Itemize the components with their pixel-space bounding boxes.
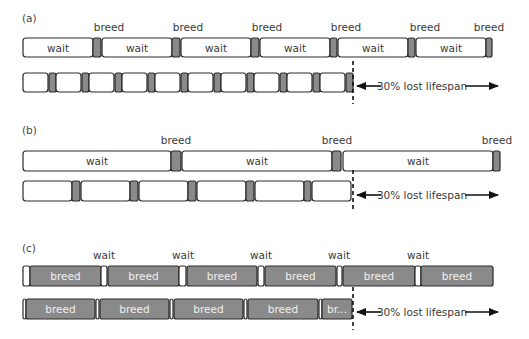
wait-segment — [23, 73, 48, 92]
breed-segment — [93, 38, 101, 57]
breed-segment-label: breed — [364, 270, 394, 282]
breed-segment — [115, 73, 122, 92]
breed-segment — [49, 73, 56, 92]
breed-segment-label: breed — [285, 270, 315, 282]
wait-segment — [96, 299, 99, 319]
breed-segment — [332, 151, 341, 171]
wait-segment — [56, 73, 81, 92]
wait-segment — [23, 181, 72, 201]
breed-segment-label: breed — [50, 270, 80, 282]
breed-segment — [181, 73, 188, 92]
wait-segment — [415, 266, 421, 286]
wait-segment — [179, 266, 186, 286]
breed-segment — [148, 73, 155, 92]
wait-segment-label: wait — [284, 42, 306, 54]
wait-segment — [255, 181, 304, 201]
wait-segment — [81, 181, 130, 201]
wait-segment-label: wait — [205, 42, 227, 54]
wait-segment — [139, 181, 188, 201]
top-label: breed — [474, 21, 504, 33]
breed-segment — [188, 181, 196, 201]
wait-segment — [89, 73, 114, 92]
wait-segment-label: wait — [246, 155, 268, 167]
breed-segment — [330, 38, 337, 57]
breed-segment-label: breed — [193, 303, 223, 315]
wait-segment — [221, 73, 246, 92]
breed-segment-label: breed — [442, 270, 472, 282]
breed-segment — [247, 73, 254, 92]
wait-segment-label: wait — [440, 42, 462, 54]
lost-lifespan-annotation: 30% lost lifespan — [377, 80, 467, 92]
top-label: wait — [172, 249, 194, 261]
breed-segment — [408, 38, 415, 57]
breed-segment — [130, 181, 138, 201]
breed-segment — [72, 181, 80, 201]
top-label: breed — [252, 21, 282, 33]
breed-segment — [493, 151, 500, 171]
breed-segment — [313, 73, 320, 92]
panel-b-label: (b) — [22, 124, 37, 136]
wait-segment — [244, 299, 247, 319]
breed-segment — [304, 181, 311, 201]
wait-segment-label: wait — [407, 155, 429, 167]
wait-segment — [258, 266, 264, 286]
wait-segment — [287, 73, 312, 92]
breed-segment — [214, 73, 221, 92]
breed-segment-label: breed — [207, 270, 237, 282]
top-label: breed — [94, 21, 124, 33]
wait-segment — [170, 299, 173, 319]
wait-segment — [101, 266, 107, 286]
breed-segment — [246, 181, 254, 201]
breed-segment-label: br... — [327, 303, 347, 315]
panel-c-label: (c) — [22, 242, 36, 254]
top-label: breed — [410, 21, 440, 33]
wait-segment — [312, 181, 351, 201]
wait-segment — [320, 73, 345, 92]
top-label: breed — [161, 134, 191, 146]
top-label: breed — [331, 21, 361, 33]
wait-segment — [197, 181, 246, 201]
top-label: breed — [173, 21, 203, 33]
top-label: breed — [322, 134, 352, 146]
wait-segment — [254, 73, 279, 92]
wait-segment-label: wait — [86, 155, 108, 167]
wait-segment-label: wait — [362, 42, 384, 54]
breed-segment — [172, 38, 180, 57]
top-label: wait — [328, 249, 350, 261]
top-label: wait — [407, 249, 429, 261]
breed-segment — [251, 38, 259, 57]
breed-segment-label: breed — [268, 303, 298, 315]
wait-segment-label: wait — [126, 42, 148, 54]
breed-segment-label: breed — [128, 270, 158, 282]
life-history-diagram: (a) (b) (c) waitwaitwaitwaitwaitwaitwait… — [0, 0, 529, 339]
wait-segment — [337, 266, 342, 286]
breed-segment — [82, 73, 89, 92]
wait-segment — [122, 73, 147, 92]
breed-segment-label: breed — [119, 303, 149, 315]
top-label: breed — [482, 134, 512, 146]
breed-segment — [346, 73, 353, 92]
breed-segment — [486, 38, 492, 57]
breed-segment — [280, 73, 287, 92]
wait-segment-label: wait — [47, 42, 69, 54]
lost-lifespan-annotation: 30% lost lifespan — [377, 306, 467, 318]
breed-segment — [171, 151, 181, 171]
top-label: wait — [93, 249, 115, 261]
top-label: wait — [250, 249, 272, 261]
wait-segment — [23, 266, 30, 286]
lost-lifespan-annotation: 30% lost lifespan — [377, 189, 467, 201]
panel-a-label: (a) — [22, 12, 37, 24]
wait-segment — [155, 73, 180, 92]
breed-segment-label: breed — [45, 303, 75, 315]
wait-segment — [188, 73, 213, 92]
